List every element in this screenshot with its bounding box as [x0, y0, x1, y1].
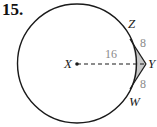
measure-xy: 16 [105, 47, 117, 61]
measure-wy: 8 [140, 77, 146, 91]
label-y: Y [148, 56, 157, 71]
center-point [75, 62, 79, 66]
label-x: X [63, 56, 73, 71]
label-w: W [129, 94, 141, 109]
measure-zy: 8 [140, 36, 146, 50]
label-z: Z [128, 16, 136, 31]
circle-tangent-diagram: 15. X Z Y W 16 8 8 [0, 0, 157, 127]
problem-number: 15. [2, 0, 23, 19]
